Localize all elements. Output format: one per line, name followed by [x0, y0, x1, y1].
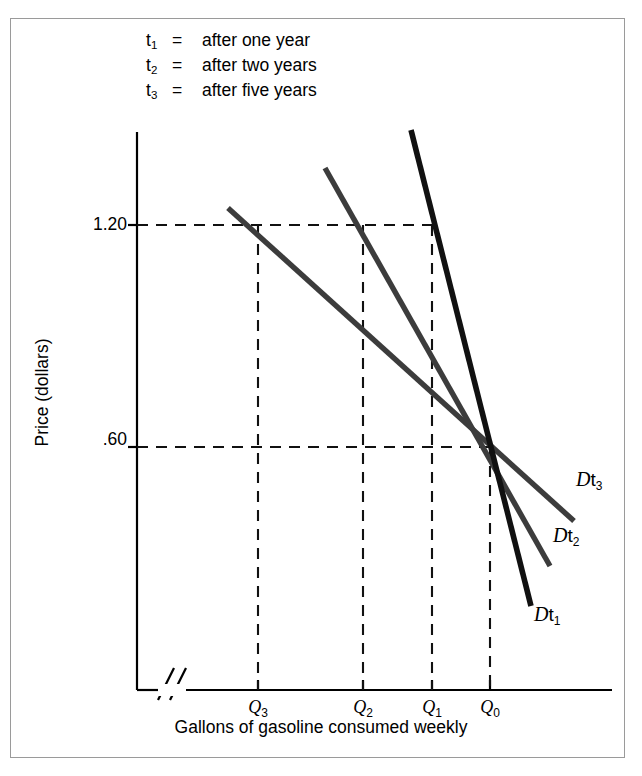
- legend-text-t3: after five years: [202, 80, 317, 100]
- x-tick-label-q1: Q1: [412, 697, 452, 720]
- legend-equals-t2: =: [172, 53, 202, 78]
- x-tick-label-q0: Q0: [470, 697, 510, 720]
- x-tick-label-q3: Q3: [238, 697, 278, 720]
- demand-curve-dt1: [411, 130, 531, 606]
- y-tick-label-120: 1.20: [57, 214, 127, 235]
- chart-plot-area: [0, 0, 642, 776]
- legend-row-t1: t1=after one year: [146, 28, 317, 53]
- curve-label-dt1: Dt1: [534, 603, 560, 628]
- curve-label-dt3: Dt3: [576, 468, 602, 493]
- curve-label-dt2: Dt2: [553, 524, 579, 549]
- legend-row-t3: t3=after five years: [146, 78, 317, 103]
- legend-equals-t1: =: [172, 28, 202, 53]
- legend-equals-t3: =: [172, 78, 202, 103]
- x-axis-title: Gallons of gasoline consumed weekly: [0, 717, 642, 738]
- legend-symbol-t3: t3: [146, 78, 172, 108]
- demand-curve-dt3: [228, 208, 574, 521]
- y-tick-label-060: .60: [57, 429, 127, 450]
- x-tick-label-q2: Q2: [343, 697, 383, 720]
- legend-row-t2: t2=after two years: [146, 53, 317, 78]
- y-axis-title: Price (dollars): [32, 313, 53, 473]
- legend-text-t1: after one year: [202, 30, 310, 50]
- legend: t1=after one year t2=after two years t3=…: [146, 28, 317, 103]
- legend-text-t2: after two years: [202, 55, 317, 75]
